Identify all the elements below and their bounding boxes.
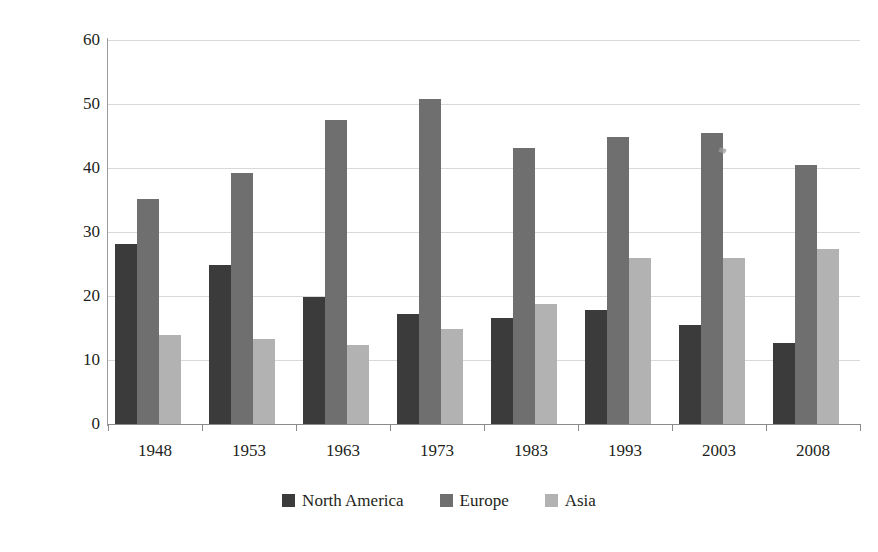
legend-item: North America <box>282 492 404 509</box>
bar-group <box>578 40 672 424</box>
bar <box>585 310 607 424</box>
x-axis-tick-mark <box>578 424 579 431</box>
chart-legend: North AmericaEuropeAsia <box>0 492 878 509</box>
legend-swatch-icon <box>282 494 295 507</box>
bar <box>535 304 557 424</box>
x-axis-tick-label: 1993 <box>578 441 672 461</box>
bar <box>773 343 795 424</box>
y-axis-tick-label: 30 <box>60 223 100 240</box>
bar <box>209 265 231 424</box>
x-axis-tick-mark <box>672 424 673 431</box>
bar <box>347 345 369 424</box>
y-axis-tick-label: 60 <box>60 31 100 48</box>
legend-label: North America <box>302 492 404 509</box>
bar <box>397 314 419 424</box>
x-axis-tick-label: 1948 <box>108 441 202 461</box>
bar <box>513 148 535 424</box>
bar-group <box>202 40 296 424</box>
bar-group <box>766 40 860 424</box>
bar <box>629 258 651 424</box>
x-axis-tick-label: 1963 <box>296 441 390 461</box>
bar <box>441 329 463 424</box>
bar <box>723 258 745 424</box>
x-axis-tick-mark <box>108 424 109 431</box>
bar <box>491 318 513 424</box>
y-axis-tick-labels: 0102030405060 <box>52 0 100 552</box>
bar <box>159 335 181 424</box>
bar <box>679 325 701 424</box>
legend-label: Europe <box>460 492 509 509</box>
y-axis-tick-label: 10 <box>60 351 100 368</box>
bar <box>701 133 723 424</box>
x-axis-tick-label: 2008 <box>766 441 860 461</box>
legend-item: Europe <box>440 492 509 509</box>
legend-swatch-icon <box>545 494 558 507</box>
bar <box>419 99 441 424</box>
y-axis-tick-label: 40 <box>60 159 100 176</box>
bar-group <box>672 40 766 424</box>
x-axis-tick-label: 2003 <box>672 441 766 461</box>
legend-label: Asia <box>565 492 596 509</box>
bar <box>325 120 347 424</box>
x-axis-tick-label: 1983 <box>484 441 578 461</box>
bar-group <box>390 40 484 424</box>
plot-area <box>108 40 860 424</box>
x-axis-tick-label: 1973 <box>390 441 484 461</box>
x-axis-tick-mark <box>296 424 297 431</box>
x-axis-tick-mark <box>484 424 485 431</box>
bar-group <box>484 40 578 424</box>
legend-item: Asia <box>545 492 596 509</box>
x-axis-tick-mark <box>202 424 203 431</box>
x-axis-tick-mark <box>860 424 861 431</box>
bar <box>303 297 325 424</box>
y-axis-tick-label: 0 <box>60 415 100 432</box>
bar-chart: Percentages of total 0102030405060 North… <box>0 0 878 552</box>
bar <box>137 199 159 424</box>
y-axis-tick-label: 20 <box>60 287 100 304</box>
bar <box>115 244 137 424</box>
bar <box>795 165 817 424</box>
x-axis-tick-label: 1953 <box>202 441 296 461</box>
bar-group <box>108 40 202 424</box>
bar <box>231 173 253 424</box>
bar <box>817 249 839 424</box>
bar-group <box>296 40 390 424</box>
x-axis-tick-mark <box>766 424 767 431</box>
bar <box>607 137 629 424</box>
x-axis-tick-mark <box>390 424 391 431</box>
y-axis-tick-label: 50 <box>60 95 100 112</box>
legend-swatch-icon <box>440 494 453 507</box>
bar <box>253 339 275 424</box>
